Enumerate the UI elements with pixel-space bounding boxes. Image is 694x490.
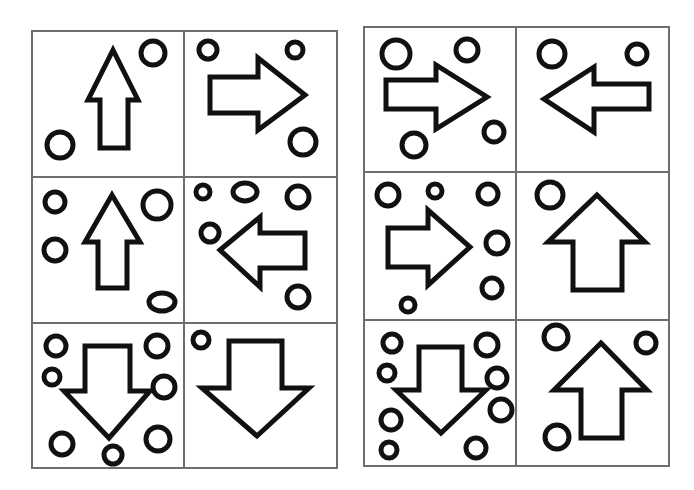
panel-L1 <box>47 41 165 158</box>
circle-icon <box>196 185 210 199</box>
panel-L5 <box>44 335 175 464</box>
circle-icon <box>478 184 498 204</box>
right-grid <box>364 27 669 466</box>
panel-R5 <box>379 334 512 458</box>
circle-icon <box>146 427 170 451</box>
circle-icon <box>383 334 401 352</box>
circle-icon <box>146 335 168 357</box>
panel-L4 <box>196 183 309 308</box>
circle-icon <box>484 122 504 142</box>
panel-R6 <box>544 325 656 449</box>
circle-icon <box>287 286 309 308</box>
circle-icon <box>153 376 175 398</box>
circle-icon <box>377 184 399 206</box>
left-grid <box>32 31 337 468</box>
circle-icon <box>51 433 73 455</box>
circle-icon <box>44 239 66 261</box>
circle-icon <box>456 39 478 61</box>
circle-icon <box>379 365 395 381</box>
circle-icon <box>149 293 175 311</box>
panel-R2 <box>539 41 649 132</box>
circle-icon <box>104 446 122 464</box>
panel-L2 <box>199 41 316 155</box>
circle-icon <box>402 133 426 157</box>
arrow-right-icon <box>388 210 470 285</box>
circle-icon <box>382 40 410 68</box>
circle-icon <box>636 333 656 353</box>
circle-icon <box>482 278 502 298</box>
circle-icon <box>539 41 565 67</box>
arrow-up-icon <box>554 343 647 438</box>
circle-icon <box>544 325 568 349</box>
circle-icon <box>290 129 316 155</box>
arrow-down-icon <box>396 347 486 433</box>
circle-icon <box>47 132 73 158</box>
circle-icon <box>627 44 647 64</box>
circle-icon <box>193 332 209 348</box>
circle-icon <box>487 368 507 388</box>
arrow-left-icon <box>544 67 649 132</box>
arrow-down-icon <box>202 341 309 436</box>
circle-icon <box>233 183 257 201</box>
arrow-up-icon <box>88 50 138 148</box>
panel-R3 <box>377 184 508 312</box>
arrow-down-icon <box>64 346 150 438</box>
circle-icon <box>381 410 401 430</box>
arrow-right-icon <box>210 58 305 130</box>
circle-icon <box>199 41 217 59</box>
arrow-up-icon <box>548 195 645 290</box>
panel-R4 <box>537 182 645 290</box>
circle-icon <box>287 186 309 208</box>
puzzle-canvas <box>0 0 694 490</box>
circle-icon <box>45 192 65 212</box>
circle-icon <box>545 425 569 449</box>
circle-icon <box>490 399 512 421</box>
circle-icon <box>476 334 498 356</box>
arrow-left-icon <box>220 217 305 287</box>
panel-L3 <box>44 191 175 311</box>
circle-icon <box>141 41 165 65</box>
circle-icon <box>401 298 415 312</box>
circle-icon <box>143 191 171 219</box>
circle-icon <box>381 442 397 458</box>
circle-icon <box>428 184 442 198</box>
circle-icon <box>486 232 508 254</box>
arrow-up-icon <box>85 195 140 288</box>
circle-icon <box>537 182 563 208</box>
panel-L6 <box>193 332 309 436</box>
panel-R1 <box>382 39 504 157</box>
arrow-right-icon <box>386 65 487 129</box>
circle-icon <box>44 369 60 385</box>
circle-icon <box>201 224 219 242</box>
circle-icon <box>466 438 486 458</box>
circle-icon <box>46 336 66 356</box>
circle-icon <box>287 42 303 58</box>
